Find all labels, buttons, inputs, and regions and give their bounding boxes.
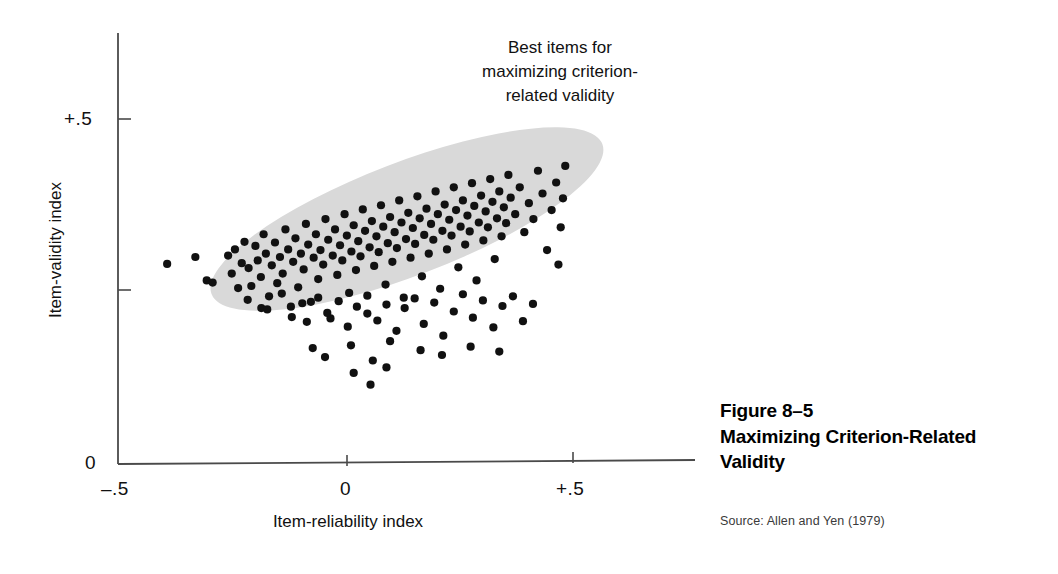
- figure-caption: Figure 8–5 Maximizing Criterion-Related …: [720, 398, 1030, 475]
- scatter-point: [538, 189, 546, 197]
- scatter-point: [525, 199, 533, 207]
- scatter-point: [265, 292, 273, 300]
- scatter-point: [554, 260, 562, 268]
- scatter-point: [431, 187, 439, 195]
- scatter-point: [329, 252, 337, 260]
- scatter-point: [353, 303, 361, 311]
- scatter-point: [491, 255, 499, 263]
- scatter-point: [273, 279, 281, 287]
- scatter-point: [361, 227, 369, 235]
- scatter-point: [291, 234, 299, 242]
- scatter-point: [363, 292, 371, 300]
- scatter-point: [552, 178, 560, 186]
- scatter-point: [336, 241, 344, 249]
- scatter-point: [279, 269, 287, 277]
- scatter-point: [463, 212, 471, 220]
- scatter-point: [297, 249, 305, 257]
- scatter-point: [247, 282, 255, 290]
- scatter-point: [379, 223, 387, 231]
- scatter-point: [319, 260, 327, 268]
- scatter-point: [271, 238, 279, 246]
- scatter-point: [418, 272, 426, 280]
- scatter-point: [244, 296, 252, 304]
- scatter-point: [425, 249, 433, 257]
- scatter-point: [386, 337, 394, 345]
- scatter-point: [438, 227, 446, 235]
- scatter-point: [324, 236, 332, 244]
- scatter-point: [519, 317, 527, 325]
- scatter-point: [454, 263, 462, 271]
- scatter-point: [372, 232, 380, 240]
- scatter-point: [344, 323, 352, 331]
- y-axis-tick-label-zero: 0: [85, 452, 96, 474]
- scatter-point: [406, 254, 414, 262]
- x-axis-line: [118, 460, 695, 464]
- scatter-point: [163, 260, 171, 268]
- scatter-point: [366, 381, 374, 389]
- scatter-point: [416, 214, 424, 222]
- scatter-point: [343, 232, 351, 240]
- scatter-point: [231, 245, 239, 253]
- scatter-point: [467, 343, 475, 351]
- scatter-point: [382, 363, 390, 371]
- scatter-point: [228, 269, 236, 277]
- scatter-point: [470, 202, 478, 210]
- scatter-point: [479, 236, 487, 244]
- scatter-point: [511, 210, 519, 218]
- scatter-point: [304, 240, 312, 248]
- scatter-point: [401, 304, 409, 312]
- scatter-point: [350, 369, 358, 377]
- scatter-point: [191, 253, 199, 261]
- scatter-point: [400, 294, 408, 302]
- scatter-point: [457, 223, 465, 231]
- scatter-point: [323, 309, 331, 317]
- scatter-point: [369, 356, 377, 364]
- scatter-point: [263, 305, 271, 313]
- scatter-point: [559, 194, 567, 202]
- scatter-point: [359, 205, 367, 213]
- scatter-point: [354, 237, 362, 245]
- scatter-point: [309, 344, 317, 352]
- scatter-point: [497, 232, 505, 240]
- scatter-point: [534, 167, 542, 175]
- scatter-point: [488, 198, 496, 206]
- scatter-point: [507, 194, 515, 202]
- scatter-point: [370, 262, 378, 270]
- scatter-point: [314, 275, 322, 283]
- scatter-point: [368, 217, 376, 225]
- scatter-point: [529, 300, 537, 308]
- scatter-point: [244, 264, 252, 272]
- scatter-point: [447, 232, 455, 240]
- scatter-point: [251, 242, 259, 250]
- scatter-point: [375, 248, 383, 256]
- scatter-point: [411, 240, 419, 248]
- scatter-point: [484, 223, 492, 231]
- annotation-line-2: maximizing criterion-: [438, 60, 682, 84]
- scatter-point: [278, 289, 286, 297]
- annotation-line-1: Best items for: [438, 36, 682, 60]
- scatter-point: [427, 220, 435, 228]
- scatter-point: [416, 346, 424, 354]
- scatter-point: [209, 278, 217, 286]
- scatter-point: [438, 351, 446, 359]
- scatter-point: [459, 196, 467, 204]
- scatter-point: [489, 323, 497, 331]
- scatter-point: [350, 221, 358, 229]
- scatter-point: [356, 252, 364, 260]
- scatter-point: [520, 228, 528, 236]
- x-axis-title: Item-reliability index: [118, 512, 578, 532]
- scatter-point: [287, 303, 295, 311]
- scatter-point: [436, 285, 444, 293]
- scatter-point: [441, 200, 449, 208]
- scatter-point: [486, 175, 494, 183]
- scatter-point: [439, 332, 447, 340]
- scatter-point: [298, 299, 306, 307]
- scatter-point: [420, 320, 428, 328]
- scatter-point: [312, 230, 320, 238]
- scatter-point: [429, 236, 437, 244]
- scatter-point: [395, 196, 403, 204]
- scatter-point: [450, 307, 458, 315]
- scatter-point: [411, 294, 419, 302]
- scatter-point: [331, 225, 339, 233]
- scatter-point: [340, 210, 348, 218]
